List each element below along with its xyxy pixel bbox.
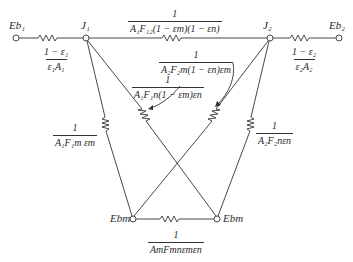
resistance-j1-ebm: 1 A₁F₁m εm — [53, 122, 97, 148]
resistance-ebm-ebn: 1 AmFmnεmεn — [148, 229, 204, 255]
denominator: A₂F₂nεn — [256, 133, 293, 147]
denominator: A₁F₁m εm — [53, 135, 97, 149]
node-ebm-left — [130, 216, 136, 222]
label-eb2: Eb₂ — [329, 20, 345, 31]
numerator: 1 — [163, 74, 172, 87]
resistance-surface-2: 1 − ε₂ ε₂A₂ — [290, 46, 318, 72]
numerator: 1 — [170, 8, 179, 21]
resistance-j1-j2: 1 A₁F₁₂(1 − εm)(1 − εn) — [128, 8, 222, 34]
node-eb1 — [13, 35, 19, 41]
node-ebm-right — [214, 216, 220, 222]
resistance-surface-1: 1 − ε₁ ε₁A₁ — [42, 46, 70, 72]
denominator: ε₂A₂ — [294, 59, 315, 73]
numerator: 1 — [71, 122, 80, 135]
label-j2: J₂ — [263, 20, 272, 31]
numerator: 1 − ε₁ — [42, 46, 70, 59]
denominator: A₁F₁₂(1 − εm)(1 − εn) — [128, 21, 222, 35]
denominator: AmFmnεmεn — [148, 242, 204, 256]
resistance-j2-ebn: 1 A₂F₂nεn — [256, 120, 293, 146]
label-j1: J₁ — [81, 20, 90, 31]
denominator: A₂F₂m(1 − εn)εm — [159, 62, 233, 76]
denominator: ε₁A₁ — [46, 59, 67, 73]
wire-j2-eb2 — [273, 35, 336, 41]
resistance-j2-ebm-cross: 1 A₂F₂m(1 − εn)εm — [159, 49, 233, 75]
denominator: A₁F₁n(1 − εm)εn — [132, 87, 204, 101]
label-ebm-left: Ebm — [110, 213, 130, 224]
label-ebm-right: Ebm — [223, 213, 243, 224]
node-j1 — [83, 35, 89, 41]
numerator: 1 — [171, 229, 180, 242]
arrowhead-j1-cross — [148, 105, 153, 110]
node-eb2 — [336, 35, 342, 41]
numerator: 1 — [270, 120, 279, 133]
wire-eb1-j1 — [19, 35, 83, 41]
wire-ebm-ebn — [136, 216, 214, 222]
wire-j1-j2 — [89, 35, 267, 41]
numerator: 1 — [191, 49, 200, 62]
node-j2 — [267, 35, 273, 41]
label-eb1: Eb₁ — [9, 20, 25, 31]
resistance-j1-ebn-cross: 1 A₁F₁n(1 − εm)εn — [132, 74, 204, 100]
numerator: 1 − ε₂ — [290, 46, 318, 59]
